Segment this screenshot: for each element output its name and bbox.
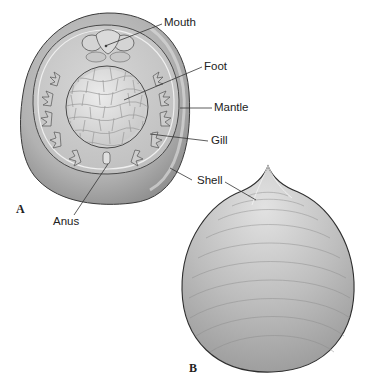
limpet-anatomy-figure: Mouth Foot Mantle Gill Shell Anus A B <box>0 0 368 384</box>
panel-letter-b: B <box>189 362 197 374</box>
diagram-artwork <box>0 0 368 384</box>
label-mantle: Mantle <box>214 102 249 114</box>
panel-a-anus <box>103 152 110 164</box>
label-anus: Anus <box>53 216 79 228</box>
label-foot: Foot <box>204 61 227 73</box>
label-shell: Shell <box>197 175 223 187</box>
label-gill: Gill <box>211 135 228 147</box>
label-mouth: Mouth <box>164 17 196 29</box>
panel-letter-a: A <box>16 203 25 215</box>
panel-b-shell <box>182 166 354 372</box>
